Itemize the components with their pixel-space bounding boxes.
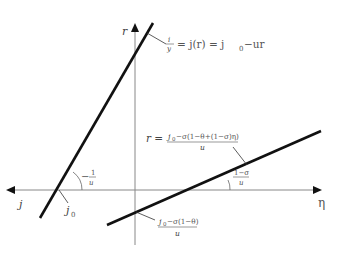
- svg-text:1: 1: [91, 169, 95, 177]
- svg-text:0: 0: [71, 211, 75, 219]
- svg-text:y: y: [166, 45, 172, 53]
- svg-text:u: u: [200, 143, 205, 152]
- arrow-right-icon: [313, 186, 322, 194]
- leader-shallow-intercept: [136, 212, 155, 220]
- shallow-line: [107, 131, 321, 225]
- steep-intercept-label: j 0: [63, 204, 75, 219]
- steep-equation-label: i y = j(r) = j 0 −ur: [166, 36, 266, 53]
- svg-text:1−σ: 1−σ: [234, 169, 249, 177]
- svg-text:j: j: [157, 217, 162, 226]
- steep-slope-label: − 1 u: [81, 169, 96, 187]
- svg-text:j: j: [166, 132, 171, 141]
- svg-text:−ur: −ur: [244, 38, 266, 50]
- svg-text:u: u: [89, 179, 94, 187]
- svg-text:−σ(1−θ): −σ(1−θ): [167, 217, 199, 226]
- shallow-equation-label: r = j 0 −σ(1−θ+(1−σ)η) u: [146, 132, 239, 152]
- svg-text:j: j: [63, 204, 70, 217]
- arrow-up-icon: [131, 23, 139, 32]
- leader-steep-equation: [147, 33, 166, 44]
- leader-shallow-equation: [233, 147, 247, 165]
- svg-text:r =: r =: [146, 132, 163, 144]
- axis-label-j: j: [16, 198, 23, 211]
- svg-text:i: i: [168, 36, 170, 44]
- axis-label-r: r: [122, 25, 128, 38]
- shallow-intercept-label: j 0 −σ(1−θ) u: [157, 217, 199, 238]
- axis-label-eta: η: [318, 196, 325, 210]
- leader-steep-intercept: [59, 190, 68, 203]
- steep-line: [40, 23, 153, 218]
- shallow-slope-arc: [228, 180, 230, 190]
- shallow-slope-label: 1−σ u: [233, 169, 249, 187]
- svg-text:u: u: [239, 179, 244, 187]
- svg-text:−σ(1−θ+(1−σ)η): −σ(1−θ+(1−σ)η): [176, 132, 239, 141]
- svg-text:u: u: [175, 229, 180, 238]
- svg-text:= j(r) = j: = j(r) = j: [177, 38, 224, 50]
- diagram-canvas: r η j i y = j(r) = j 0 −ur − 1 u j 0 r =…: [0, 0, 340, 255]
- arrow-left-icon: [6, 186, 15, 194]
- svg-text:0: 0: [239, 45, 243, 53]
